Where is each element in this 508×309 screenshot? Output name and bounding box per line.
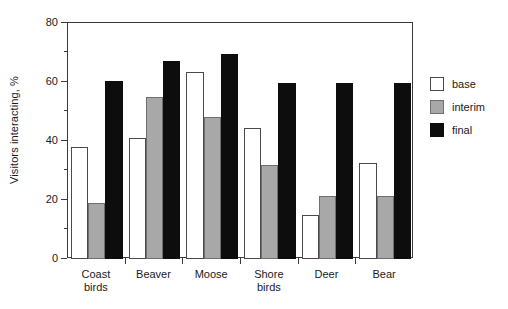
legend-swatch-interim bbox=[430, 100, 444, 114]
x-tick-separator bbox=[298, 258, 299, 264]
x-tick-separator bbox=[125, 258, 126, 264]
x-category-label: Shore birds bbox=[240, 268, 298, 294]
x-category-label: Beaver bbox=[125, 268, 183, 281]
legend: baseinterimfinal bbox=[430, 72, 506, 141]
legend-label: final bbox=[452, 124, 472, 136]
legend-label: interim bbox=[452, 101, 485, 113]
legend-item-interim[interactable]: interim bbox=[430, 95, 506, 118]
x-tick-separator bbox=[355, 258, 356, 264]
x-category-label: Coast birds bbox=[67, 268, 125, 294]
legend-swatch-final bbox=[430, 123, 444, 137]
x-tick-separator bbox=[240, 258, 241, 264]
bar-chart: Visitors interacting, % 020406080 basein… bbox=[0, 0, 508, 309]
x-tick-separator bbox=[182, 258, 183, 264]
x-category-label: Deer bbox=[298, 268, 356, 281]
x-category-label: Moose bbox=[182, 268, 240, 281]
x-axis-ticks bbox=[0, 0, 508, 309]
x-category-label: Bear bbox=[355, 268, 413, 281]
legend-swatch-base bbox=[430, 77, 444, 91]
legend-label: base bbox=[452, 78, 476, 90]
legend-item-final[interactable]: final bbox=[430, 118, 506, 141]
legend-item-base[interactable]: base bbox=[430, 72, 506, 95]
